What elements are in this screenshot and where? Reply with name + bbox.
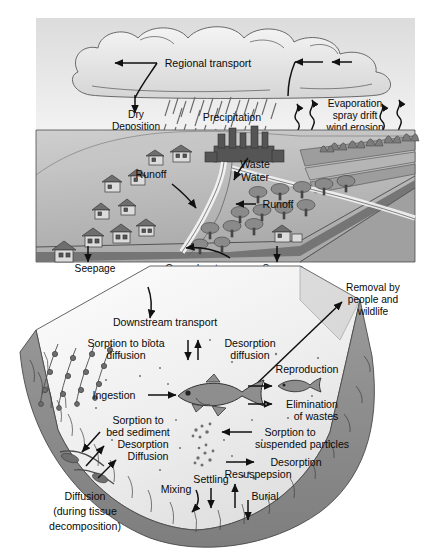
label-desorption-suspended: Desorption — [270, 456, 321, 468]
label-diffusion-bed: Diffusion — [127, 450, 168, 462]
label-removal-line2: people and — [348, 294, 399, 305]
label-burial: Burial — [251, 490, 278, 502]
label-sorption-bed-line1: Sorption to — [112, 414, 163, 426]
label-diffusion-tissue-line2: (during tissue — [53, 505, 117, 517]
label-precipitation: Precipitation — [203, 111, 261, 123]
label-removal-line3: wildlife — [357, 306, 389, 317]
label-mixing: Mixing — [161, 483, 192, 495]
label-sorption-suspended-line2: suspended particles — [255, 438, 349, 450]
label-dry-deposition-line1: Dry — [128, 109, 145, 120]
label-desorption-bed: Desorption — [117, 438, 168, 450]
label-evaporation-line1: Evaporation — [328, 98, 382, 109]
label-ingestion: Ingestion — [93, 389, 136, 401]
label-desorption-line2: diffusion — [230, 349, 269, 361]
label-runoff-upper: Runoff — [135, 168, 166, 180]
label-diffusion-tissue-line3: decomposition) — [49, 520, 121, 532]
label-waste-water-line1: Waste — [240, 158, 270, 170]
label-seepage-left: Seepage — [75, 263, 116, 274]
label-elimination-line1: Elimination — [286, 398, 338, 410]
label-sorption-biota-line2: diffusion — [106, 349, 145, 361]
label-evaporation-line2: spray drift — [333, 110, 378, 121]
label-resuspension: Resuspepsion — [224, 468, 291, 480]
label-runoff-lower: Runoff — [262, 198, 293, 210]
label-regional-transport: Regional transport — [165, 57, 252, 69]
label-sorption-suspended-line1: Sorption to — [264, 426, 315, 438]
label-elimination-line2: of wastes — [294, 410, 339, 422]
label-sorption-bed-line2: bed sediment — [106, 426, 170, 438]
label-sorption-biota-line1: Sorption to biota — [87, 337, 164, 349]
label-removal-line1: Removal by — [346, 282, 401, 293]
label-desorption-line1: Desorption — [224, 337, 275, 349]
label-waste-water-line2: Water — [241, 171, 269, 183]
label-reproduction: Reproduction — [275, 363, 338, 375]
label-downstream-transport: Downstream transport — [113, 316, 217, 328]
label-diffusion-tissue-line1: Diffusion — [64, 490, 105, 502]
environmental-fate-diagram: Regional transport Dry Deposition Precip… — [0, 0, 426, 548]
diagram-canvas: Regional transport Dry Deposition Precip… — [0, 0, 426, 548]
